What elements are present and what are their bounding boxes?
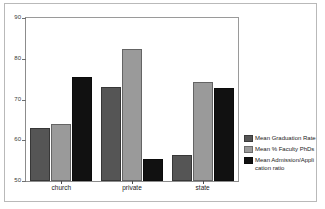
legend-swatch (244, 135, 253, 142)
bar (172, 155, 192, 181)
legend-swatch (244, 146, 253, 153)
bar (30, 128, 50, 181)
y-axis-tick (22, 181, 26, 182)
y-axis-tick-label-wrap: 60 (0, 136, 21, 144)
legend-label: Mean Admission/Appli cation ratio (255, 156, 319, 172)
bar (122, 49, 142, 181)
bar-chart-figure: 9080706050 churchprivatestate Mean Gradu… (0, 0, 325, 209)
plot-area (26, 18, 238, 181)
legend-label: Mean Graduation Rate (255, 134, 316, 142)
y-axis-tick-label: 80 (0, 55, 21, 61)
legend-item: Mean Admission/Appli cation ratio (244, 156, 320, 172)
legend-item: Mean Graduation Rate (244, 134, 320, 142)
x-axis-tick (132, 181, 133, 184)
y-axis-tick-label-wrap: 70 (0, 96, 21, 104)
y-axis-tick-label: 90 (0, 14, 21, 20)
legend-item: Mean % Faculty PhDs (244, 145, 320, 153)
y-axis-tick-label-wrap: 80 (0, 55, 21, 63)
bar-group (30, 18, 92, 181)
bar (101, 87, 121, 181)
bar (214, 88, 234, 181)
bar (51, 124, 71, 181)
y-axis-tick-label: 60 (0, 136, 21, 142)
chart-legend: Mean Graduation RateMean % Faculty PhDsM… (244, 134, 320, 175)
x-axis-category-label: church (31, 184, 91, 191)
x-axis-category-label: private (102, 184, 162, 191)
y-axis-tick-label-wrap: 50 (0, 177, 21, 185)
y-axis-tick-label: 50 (0, 177, 21, 183)
y-axis-tick-label: 70 (0, 96, 21, 102)
x-axis-category-label: state (173, 184, 233, 191)
legend-label: Mean % Faculty PhDs (255, 145, 314, 153)
legend-swatch (244, 157, 253, 164)
y-axis-tick-label-wrap: 90 (0, 14, 21, 22)
x-axis-tick (61, 181, 62, 184)
bar (193, 82, 213, 181)
bar (72, 77, 92, 181)
x-axis-tick (203, 181, 204, 184)
bar-group (101, 18, 163, 181)
bar (143, 159, 163, 181)
bar-group (172, 18, 234, 181)
